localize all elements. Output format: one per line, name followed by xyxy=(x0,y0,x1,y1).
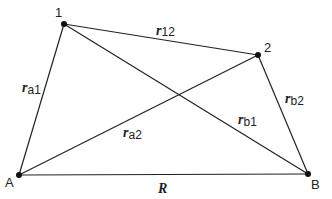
edge-a-2 xyxy=(19,55,258,175)
edge-label-rb2: rb2 xyxy=(285,91,304,108)
point-a xyxy=(16,172,22,178)
edge-label-ra1: ra1 xyxy=(22,80,41,97)
distance-diagram: 1 2 A B r12 ra1 ra2 rb1 rb2 R xyxy=(0,0,332,199)
edge-2-b xyxy=(258,55,308,174)
point-label-1: 1 xyxy=(55,5,62,20)
edge-1-b xyxy=(64,24,308,174)
edge-label-ra2: ra2 xyxy=(123,125,142,142)
point-label-a: A xyxy=(5,175,14,190)
point-label-b: B xyxy=(311,177,320,192)
point-1 xyxy=(61,21,67,27)
point-2 xyxy=(255,52,261,58)
edge-label-r-ab: R xyxy=(157,181,167,196)
edge-a-1 xyxy=(19,24,64,175)
edge-label-rb1: rb1 xyxy=(238,112,257,129)
point-label-2: 2 xyxy=(264,40,271,55)
edge-label-r12: r12 xyxy=(156,23,175,39)
edge-a-b xyxy=(19,174,308,175)
